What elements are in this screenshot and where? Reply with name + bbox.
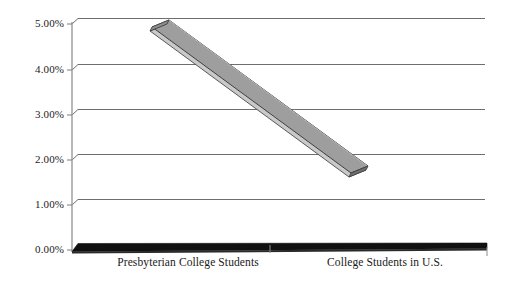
- y-tick-label-3: 3.00%: [14, 108, 64, 120]
- x-tick-label-college-students-in-us: College Students in U.S.: [290, 256, 480, 268]
- y-tick-label-4: 4.00%: [14, 63, 64, 75]
- y-tick-label-5: 5.00%: [14, 17, 64, 29]
- ribbon-top-face: [152, 20, 368, 173]
- gridline-1: [72, 200, 485, 206]
- value-axis-ticks: [67, 24, 72, 250]
- gridline-4: [72, 65, 485, 71]
- chart-container: 5.00% 4.00% 3.00% 2.00% 1.00% 0.00% Pres…: [0, 0, 515, 287]
- y-tick-label-1: 1.00%: [14, 198, 64, 210]
- y-tick-label-0: 0.00%: [14, 243, 64, 255]
- gridline-5: [72, 19, 485, 25]
- floor-plane: [72, 243, 487, 254]
- data-series-ribbon: [150, 20, 368, 177]
- y-tick-label-2: 2.00%: [14, 153, 64, 165]
- gridline-2: [72, 155, 485, 161]
- chart-canvas: [0, 0, 515, 287]
- x-tick-label-presbyterian-college-students: Presbyterian College Students: [88, 256, 288, 268]
